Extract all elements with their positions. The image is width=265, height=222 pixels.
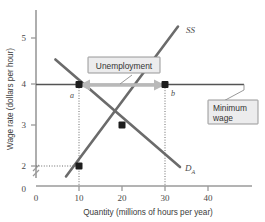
point-b-marker — [162, 81, 169, 88]
supply-curve — [66, 27, 178, 177]
x-tick-label-40: 40 — [204, 193, 214, 203]
y-axis-title: Wage rate (dollars per hour) — [6, 48, 15, 150]
chart-figure: 5 4 3 2 0 0 10 20 30 40 Wage rate (dolla… — [0, 0, 265, 222]
unemployment-span-arrow — [79, 80, 165, 91]
supply-curve-label: SS — [186, 25, 196, 35]
minimum-wage-callout-line1: Minimum — [213, 103, 247, 113]
y-tick-label-4: 4 — [22, 79, 27, 89]
demand-curve — [55, 60, 180, 168]
y-tick-label-2: 2 — [22, 161, 27, 171]
point-supply-10-2-marker — [76, 163, 83, 170]
x-tick-label-20: 20 — [118, 193, 128, 203]
equilibrium-marker — [119, 122, 126, 129]
demand-curve-label: D A — [184, 163, 196, 175]
unemployment-callout-label: Unemployment — [96, 61, 153, 71]
x-tick-label-10: 10 — [75, 193, 85, 203]
y-tick-label-3: 3 — [22, 120, 27, 130]
demand-curve-label-subscript: A — [191, 169, 196, 175]
x-axis-title: Quantity (millions of hours per year) — [83, 208, 213, 217]
x-tick-label-30: 30 — [161, 193, 171, 203]
point-a-label: a — [70, 91, 74, 100]
data-points — [76, 81, 169, 170]
unemployment-callout: Unemployment — [88, 57, 160, 84]
point-b-label: b — [171, 89, 175, 98]
minimum-wage-callout-line2: wage — [212, 113, 233, 123]
x-tick-label-0: 0 — [34, 193, 39, 203]
y-tick-label-0: 0 — [22, 184, 27, 194]
y-tick-label-5: 5 — [22, 33, 27, 43]
minimum-wage-callout: Minimum wage — [208, 85, 258, 125]
guide-lines — [36, 85, 165, 186]
point-a-marker — [76, 81, 83, 88]
